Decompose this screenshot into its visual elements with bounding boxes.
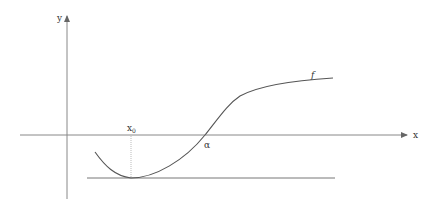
y-axis-label: y (56, 13, 63, 23)
minimum-label-subscript: 0 (132, 127, 136, 134)
minimum-label-x0: x0 (127, 123, 136, 134)
x-axis-label: x (413, 130, 418, 140)
root-label-alpha: α (204, 140, 210, 150)
curve-label-f: f (310, 70, 316, 80)
function-diagram: x y f x0 α (0, 0, 425, 201)
